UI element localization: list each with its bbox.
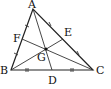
label-e: E xyxy=(64,26,72,39)
label-d: D xyxy=(48,74,57,87)
label-g: G xyxy=(37,51,46,64)
label-c: C xyxy=(96,64,104,77)
median-cf xyxy=(22,39,93,70)
label-f: F xyxy=(13,32,21,45)
label-a: A xyxy=(27,0,37,11)
label-b: B xyxy=(0,64,8,77)
triangle-diagram: A B C D E F G xyxy=(0,0,111,89)
